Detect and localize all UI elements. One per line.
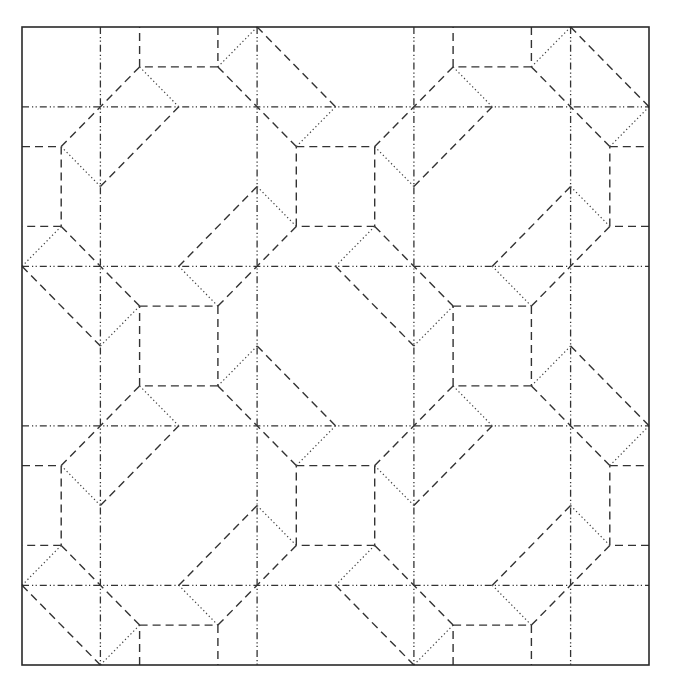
dotted-guide-segment: [140, 67, 179, 107]
dotted-guide-segment: [257, 187, 296, 227]
dotted-guide-segment: [61, 147, 100, 187]
dotted-guide-segment: [296, 426, 335, 466]
valley-fold-lines: [22, 27, 649, 665]
valley-fold-segment: [257, 27, 335, 107]
dotted-guide-segment: [257, 506, 296, 546]
valley-fold-segment: [414, 107, 492, 187]
dotted-guide-segment: [296, 107, 335, 147]
dotted-guide-segment: [453, 386, 492, 426]
valley-fold-segment: [218, 386, 296, 466]
valley-fold-segment: [22, 266, 100, 346]
dotted-guide-segment: [610, 107, 649, 147]
dotted-guide-segment: [218, 346, 257, 386]
mountain-fold-lines: [22, 27, 649, 665]
dotted-guide-segment: [571, 187, 610, 227]
dotted-guide-segment: [179, 585, 218, 625]
valley-fold-segment: [257, 346, 335, 426]
dotted-guide-segment: [492, 266, 531, 306]
dotted-guide-segment: [414, 306, 453, 346]
dotted-guide-segment: [492, 585, 531, 625]
valley-fold-segment: [179, 187, 257, 267]
valley-fold-segment: [179, 506, 257, 586]
dotted-guide-segment: [531, 27, 570, 67]
dotted-guide-segment: [610, 426, 649, 466]
crease-pattern-diagram: [0, 0, 681, 690]
valley-fold-segment: [61, 386, 139, 466]
valley-fold-segment: [100, 107, 178, 187]
valley-fold-segment: [375, 386, 453, 466]
dotted-guide-segment: [22, 545, 61, 585]
valley-fold-segment: [571, 346, 649, 426]
valley-fold-segment: [336, 266, 414, 346]
dotted-guide-segment: [336, 545, 375, 585]
valley-fold-segment: [22, 585, 100, 665]
valley-fold-segment: [100, 426, 178, 506]
dotted-guide-segment: [100, 306, 139, 346]
dotted-guide-segment: [100, 625, 139, 665]
dotted-guide-segment: [61, 466, 100, 506]
paper-square-border: [22, 27, 649, 665]
dotted-guide-segment: [218, 27, 257, 67]
dotted-guide-segment: [140, 386, 179, 426]
dotted-guide-segment: [571, 506, 610, 546]
valley-fold-segment: [492, 187, 570, 267]
dotted-guide-segment: [336, 226, 375, 266]
valley-fold-segment: [571, 27, 649, 107]
dotted-guide-segment: [375, 147, 414, 187]
dotted-guide-lines: [22, 27, 649, 665]
dotted-guide-segment: [375, 466, 414, 506]
valley-fold-segment: [492, 506, 570, 586]
dotted-guide-segment: [414, 625, 453, 665]
dotted-guide-segment: [179, 266, 218, 306]
dotted-guide-segment: [453, 67, 492, 107]
dotted-guide-segment: [531, 346, 570, 386]
valley-fold-segment: [414, 426, 492, 506]
dotted-guide-segment: [22, 226, 61, 266]
valley-fold-segment: [336, 585, 414, 665]
